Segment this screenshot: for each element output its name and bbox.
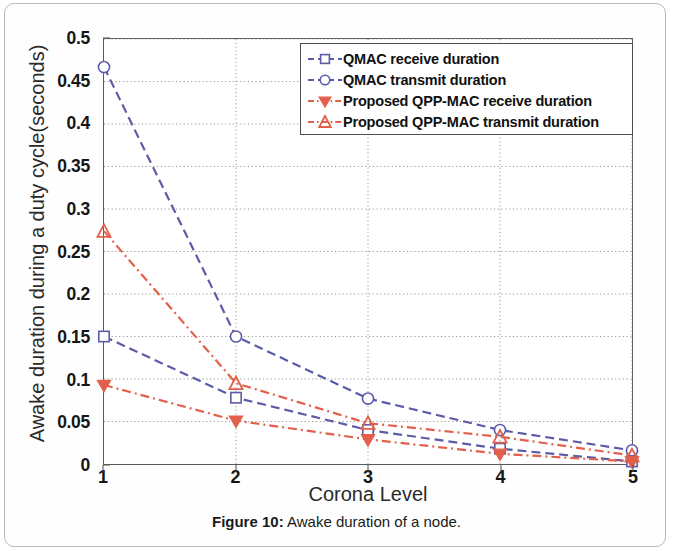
x-tick-mark [103, 465, 104, 472]
legend-label: Proposed QPP-MAC transmit duration [343, 114, 599, 130]
data-point-marker [99, 331, 109, 341]
figure-caption-prefix: Figure 10: [212, 513, 284, 530]
series-line-3 [104, 231, 632, 455]
figure-caption-text: Awake duration of a node. [284, 513, 461, 530]
y-tick-label: 0.05 [57, 412, 90, 433]
data-point-marker [98, 61, 109, 72]
legend-marker-square-icon [307, 50, 343, 68]
y-tick-label: 0.1 [67, 369, 90, 390]
legend-marker-triangle-up-icon [307, 113, 343, 131]
y-tick-label: 0.2 [67, 284, 90, 305]
y-axis-label: Awake duration during a duty cycle(secon… [26, 29, 49, 459]
legend-label: QMAC transmit duration [343, 72, 506, 88]
legend-marker-triangle-down-icon [307, 92, 343, 110]
data-point-marker [230, 331, 241, 342]
y-tick-label: 0.4 [67, 113, 90, 134]
chart-legend: QMAC receive durationQMAC transmit durat… [300, 43, 633, 135]
y-tick-label: 0.15 [57, 326, 90, 347]
x-tick-mark [500, 465, 501, 472]
data-point-marker [361, 435, 374, 446]
legend-item-2: Proposed QPP-MAC receive duration [307, 90, 626, 111]
y-axis-ticks: 00.050.10.150.20.250.30.350.40.450.5 [0, 38, 98, 465]
legend-item-3: Proposed QPP-MAC transmit duration [307, 111, 626, 132]
figure-caption: Figure 10: Awake duration of a node. [0, 513, 673, 530]
x-axis-label: Corona Level [103, 483, 633, 506]
data-point-marker [362, 393, 373, 404]
data-point-marker [363, 425, 373, 435]
y-tick-label: 0.35 [57, 156, 90, 177]
x-tick-mark [368, 465, 369, 472]
y-tick-label: 0.3 [67, 198, 90, 219]
legend-label: Proposed QPP-MAC receive duration [343, 93, 592, 109]
data-point-marker [493, 449, 506, 460]
legend-marker-circle-icon [307, 71, 343, 89]
data-point-marker [97, 224, 110, 237]
x-tick-mark [633, 465, 634, 472]
y-tick-label: 0 [81, 455, 90, 476]
figure-container: 00.050.10.150.20.250.30.350.40.450.5 Awa… [0, 0, 673, 551]
legend-item-0: QMAC receive duration [307, 48, 626, 69]
data-point-marker [231, 393, 241, 403]
y-tick-label: 0.5 [67, 28, 90, 49]
x-tick-mark [235, 465, 236, 472]
y-tick-label: 0.25 [57, 241, 90, 262]
legend-item-1: QMAC transmit duration [307, 69, 626, 90]
legend-label: QMAC receive duration [343, 51, 499, 67]
y-tick-label: 0.45 [57, 70, 90, 91]
